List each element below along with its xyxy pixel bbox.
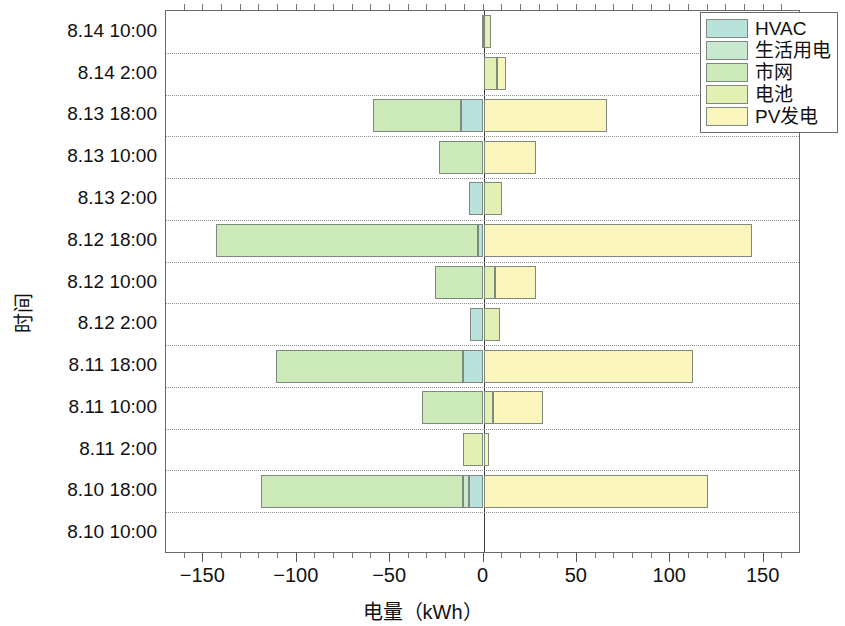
chart-legend: HVAC生活用电市网电池PV发电 (700, 12, 838, 133)
x-top-tick (763, 4, 764, 10)
x-minor-tick (314, 553, 315, 558)
x-top-tick (370, 4, 371, 10)
x-top-tick (408, 4, 409, 10)
legend-item: 生活用电 (706, 39, 832, 61)
gridline (166, 512, 799, 513)
x-top-tick (240, 4, 241, 10)
bar-segment-HVAC (470, 308, 483, 341)
x-top-tick (221, 4, 222, 10)
bar-segment-PV发电 (484, 433, 490, 466)
x-minor-tick (426, 553, 427, 558)
x-top-tick (557, 4, 558, 10)
legend-label: 生活用电 (755, 41, 831, 60)
x-minor-tick (557, 553, 558, 558)
bar-row (166, 141, 799, 174)
bar-segment-电池 (484, 15, 491, 48)
x-top-tick (184, 4, 185, 10)
x-tick-label: −100 (273, 564, 318, 587)
bar-row (166, 433, 799, 466)
legend-swatch (706, 19, 748, 38)
gridline (166, 429, 799, 430)
y-tick-label: 8.12 18:00 (67, 229, 157, 251)
bar-segment-电池 (484, 391, 493, 424)
bar-row (166, 266, 799, 299)
legend-label: 市网 (755, 63, 793, 82)
x-minor-tick (370, 553, 371, 558)
x-minor-tick (744, 553, 745, 558)
legend-label: HVAC (755, 19, 806, 38)
x-top-tick (352, 4, 353, 10)
x-top-tick (595, 4, 596, 10)
x-major-tick (763, 553, 764, 562)
bar-segment-电池 (463, 433, 484, 466)
bar-segment-PV发电 (497, 57, 506, 90)
x-minor-tick (520, 553, 521, 558)
bar-segment-PV发电 (484, 475, 708, 508)
x-top-tick (202, 4, 203, 10)
x-minor-tick (539, 553, 540, 558)
x-top-tick (445, 4, 446, 10)
x-minor-tick (464, 553, 465, 558)
y-tick-label: 8.13 2:00 (78, 187, 157, 209)
x-minor-tick (613, 553, 614, 558)
bar-segment-HVAC (469, 182, 484, 215)
bar-segment-电池 (484, 308, 501, 341)
bar-segment-PV发电 (484, 224, 753, 257)
bar-row (166, 182, 799, 215)
x-minor-tick (277, 553, 278, 558)
bar-segment-PV发电 (484, 350, 693, 383)
x-major-tick (389, 553, 390, 562)
bar-segment-市网 (439, 141, 484, 174)
y-axis-title: 时间 (8, 293, 37, 333)
gridline (166, 262, 799, 263)
gridline (166, 303, 799, 304)
x-minor-tick (184, 553, 185, 558)
y-tick-label: 8.11 2:00 (79, 438, 157, 460)
bar-row (166, 350, 799, 383)
bar-row (166, 391, 799, 424)
x-top-tick (258, 4, 259, 10)
gridline (166, 470, 799, 471)
bar-segment-市网 (261, 475, 463, 508)
x-major-tick (483, 553, 484, 562)
x-top-tick (688, 4, 689, 10)
x-minor-tick (333, 553, 334, 558)
x-minor-tick (221, 553, 222, 558)
x-minor-tick (445, 553, 446, 558)
bar-segment-PV发电 (493, 391, 543, 424)
x-top-tick (520, 4, 521, 10)
x-top-tick (426, 4, 427, 10)
x-minor-tick (352, 553, 353, 558)
x-top-tick (389, 4, 390, 10)
legend-swatch (706, 41, 748, 60)
x-minor-tick (632, 553, 633, 558)
x-top-tick (539, 4, 540, 10)
bar-segment-HVAC (461, 99, 483, 132)
bar-segment-电池 (484, 57, 497, 90)
x-tick-label: −50 (372, 564, 406, 587)
x-top-tick (464, 4, 465, 10)
x-top-tick (501, 4, 502, 10)
bar-segment-市网 (276, 350, 463, 383)
y-tick-label: 8.12 2:00 (78, 312, 157, 334)
gridline (166, 178, 799, 179)
legend-item: HVAC (706, 17, 832, 39)
bar-segment-电池 (484, 182, 503, 215)
x-top-tick (314, 4, 315, 10)
y-tick-label: 8.11 18:00 (69, 354, 157, 376)
x-tick-label: 100 (653, 564, 686, 587)
x-major-tick (296, 553, 297, 562)
bar-segment-PV发电 (495, 266, 536, 299)
bar-segment-电池 (484, 266, 495, 299)
bar-segment-生活用电 (463, 475, 469, 508)
x-top-tick (576, 4, 577, 10)
x-top-tick (725, 4, 726, 10)
x-top-tick (333, 4, 334, 10)
x-top-tick (483, 4, 484, 10)
bar-segment-市网 (422, 391, 484, 424)
x-minor-tick (688, 553, 689, 558)
y-tick-label: 8.10 18:00 (67, 479, 157, 501)
legend-item: PV发电 (706, 105, 832, 127)
x-top-tick (744, 4, 745, 10)
x-minor-tick (240, 553, 241, 558)
